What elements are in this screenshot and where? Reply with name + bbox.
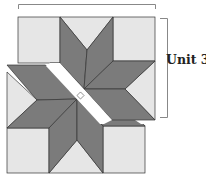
right-bracket (160, 19, 168, 118)
top-bracket (19, 5, 156, 10)
upper-left-square (18, 17, 60, 63)
unit-label: Unit 3 (166, 52, 206, 67)
lower-right-square (103, 126, 145, 173)
upper-right-square (113, 17, 155, 61)
lower-left-square (7, 128, 49, 173)
quilt-diagram (0, 0, 206, 178)
